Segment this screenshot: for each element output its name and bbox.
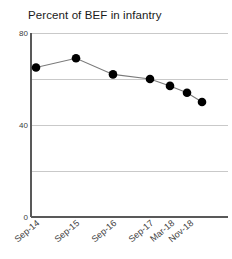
chart-container: Percent of BEF in infantry 80 40 0 Sep-1… — [0, 0, 232, 259]
data-point — [72, 54, 81, 63]
data-point — [109, 70, 118, 79]
data-point — [198, 98, 207, 107]
data-point — [146, 75, 155, 84]
chart-plot-area: 80 40 0 Sep-14 Sep-15 Sep-16 Sep-17 Mar-… — [0, 0, 232, 259]
y-tick-label-40: 40 — [19, 121, 28, 130]
y-tick-label-80: 80 — [19, 29, 28, 38]
y-tick-labels: 80 40 0 — [19, 29, 28, 222]
x-tick-labels: Sep-14 Sep-15 Sep-16 Sep-17 Mar-18 Nov-1… — [13, 218, 196, 244]
x-tick-label-sep-16: Sep-16 — [90, 218, 119, 244]
series-line — [36, 58, 202, 102]
y-tick-label-0: 0 — [24, 213, 29, 222]
data-point — [166, 82, 175, 91]
data-point — [183, 89, 192, 98]
data-point — [32, 63, 41, 72]
series-markers-group — [32, 54, 207, 106]
x-tick-label-sep-15: Sep-15 — [53, 218, 82, 244]
